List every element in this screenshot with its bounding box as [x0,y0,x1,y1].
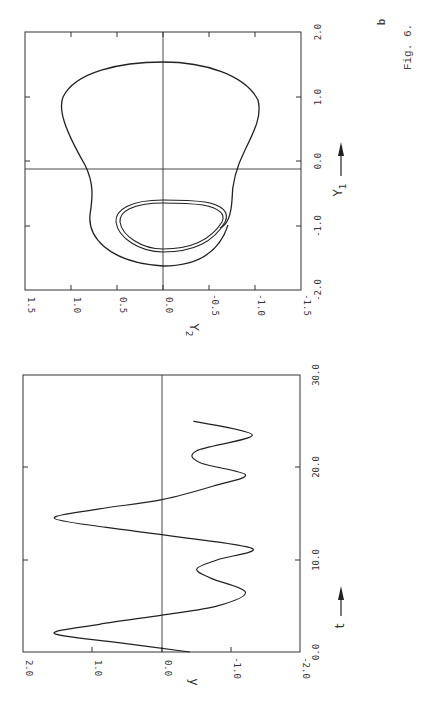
panel-label: b [376,18,388,25]
y2-tick-label: -1.0 [256,294,266,316]
y2-tick-label: 1.5 [26,297,36,313]
time-plot-frame [23,375,300,652]
y1-tick-label: -2.0 [313,279,323,301]
y2-tick-labels: 1.51.00.50.0-0.5-1.0-1.5 [26,294,312,316]
y-tick-label: 1.0 [93,660,103,676]
y2-tick-label: -1.5 [302,294,312,316]
y2-tick-label: 0.0 [164,297,174,313]
y1-tick-label: 1.0 [313,89,323,105]
t-axis-label: t [333,623,347,628]
y1-tick-label: 2.0 [313,24,323,40]
y1-tick-label: 0.0 [313,153,323,169]
phase-outer-loop [61,62,259,266]
y2-tick-label: 1.0 [72,297,82,313]
t-tick-label: 0.0 [311,644,321,660]
t-tick-label: 30.0 [311,364,321,386]
y2-axis-label: Y2 [184,322,201,336]
t-tick-label: 20.0 [311,456,321,478]
y1-direction-arrow-icon [338,142,344,176]
figure-caption: Fig. 6. [402,24,414,70]
y1-axis-label: Y1 [331,183,348,197]
y1-tick-label: -1.0 [313,215,323,237]
time-ticks [23,467,300,652]
y-tick-label: -1.0 [232,657,242,679]
y1-tick-labels: 2.01.00.0-1.0-2.0 [313,24,323,301]
y-tick-label: 2.0 [24,660,34,676]
t-tick-label: 10.0 [311,549,321,571]
figure-canvas: 2.01.00.0-1.0-2.0 1.51.00.50.0-0.5-1.0-1… [0,0,429,702]
y2-tick-label: -0.5 [210,294,220,316]
t-tick-labels: 0.010.020.030.0 [311,364,321,660]
y-axis-label: y [187,678,201,685]
t-direction-arrow-icon [338,586,344,616]
phase-inner-loop-2 [120,203,223,249]
time-series-curve [54,421,253,652]
y-tick-label: -2.0 [301,657,311,679]
y-tick-label: 0.0 [163,660,173,676]
phase-plot: 2.01.00.0-1.0-2.0 1.51.00.50.0-0.5-1.0-1… [25,24,348,337]
time-plot: 0.010.020.030.0 2.01.00.0-1.0-2.0 y t [23,364,347,685]
y-tick-labels: 2.01.00.0-1.0-2.0 [24,657,311,679]
y2-tick-label: 0.5 [118,297,128,313]
